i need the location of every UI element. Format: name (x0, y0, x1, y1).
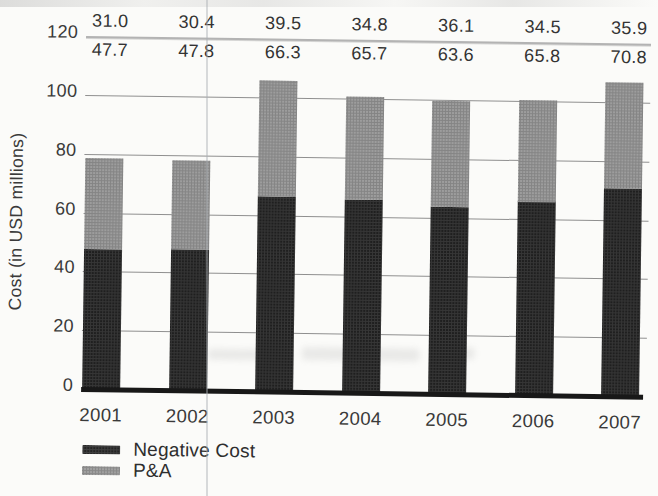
x-tick-label-2005: 2005 (425, 409, 468, 432)
stacked-bar-chart: 02040608010012031.030.439.534.836.134.53… (0, 0, 658, 496)
legend: Negative Cost P&A (82, 441, 256, 485)
bar-2001-pa-segment (84, 157, 123, 249)
y-tick-label-0: 0 (0, 374, 73, 396)
annotation-p-a-2001: 31.0 (92, 11, 129, 33)
tilted-scan-sheet: 02040608010012031.030.439.534.836.134.53… (0, 0, 658, 496)
negative-cost-swatch-icon (82, 444, 120, 454)
y-axis-title: Cost (in USD millions) (4, 106, 28, 336)
bar-2003-negative-cost-segment (255, 196, 296, 392)
bar-2002-negative-cost-segment (169, 250, 209, 391)
bar-2005-pa-segment (431, 100, 470, 207)
x-tick-label-2006: 2006 (512, 410, 555, 433)
annotation-p-a-2005: 36.1 (438, 15, 475, 37)
annotation-negative-cost-2002: 47.8 (178, 41, 215, 63)
x-tick-label-2007: 2007 (598, 411, 641, 434)
annotation-p-a-2007: 35.9 (611, 18, 648, 40)
bar-2007-negative-cost-segment (601, 188, 642, 397)
bar-2007-pa-segment (604, 82, 643, 188)
bar-2002-pa-segment (171, 160, 210, 250)
bar-2005-negative-cost-segment (428, 207, 469, 395)
legend-item-pa: P&A (82, 462, 255, 480)
bar-2004-negative-cost-segment (342, 199, 383, 393)
annotation-p-a-2006: 34.5 (524, 17, 561, 39)
scan-artifact-line (206, 0, 208, 496)
bar-2001-negative-cost-segment (82, 249, 122, 390)
legend-item-negative-cost: Negative Cost (82, 441, 255, 459)
annotation-negative-cost-2007: 70.8 (611, 47, 648, 69)
bar-2004-pa-segment (344, 97, 383, 200)
x-tick-label-2002: 2002 (166, 405, 209, 428)
x-tick-label-2004: 2004 (339, 408, 382, 431)
x-tick-label-2001: 2001 (79, 404, 122, 427)
legend-label: Negative Cost (133, 439, 255, 463)
pa-swatch-icon (82, 465, 120, 475)
bar-2006-negative-cost-segment (515, 201, 556, 395)
annotation-p-a-2002: 30.4 (178, 12, 215, 34)
bar-2003-pa-segment (258, 80, 298, 197)
annotation-negative-cost-2006: 65.8 (524, 46, 561, 68)
y-tick-label-100: 100 (0, 80, 77, 102)
scanned-chart-page: { "page": { "background_color": "#fbfbf9… (0, 0, 658, 496)
y-tick-label-120: 120 (0, 21, 78, 43)
x-tick-label-2003: 2003 (252, 406, 295, 429)
annotation-p-a-2004: 34.8 (351, 14, 388, 36)
annotation-negative-cost-2003: 66.3 (265, 42, 302, 64)
legend-label: P&A (133, 460, 172, 483)
annotation-p-a-2003: 39.5 (265, 13, 302, 35)
annotation-negative-cost-2004: 65.7 (351, 43, 388, 65)
scan-edge-smear (0, 0, 658, 7)
annotation-negative-cost-2005: 63.6 (438, 44, 475, 66)
bar-2006-pa-segment (517, 100, 556, 202)
annotation-negative-cost-2001: 47.7 (92, 40, 129, 62)
